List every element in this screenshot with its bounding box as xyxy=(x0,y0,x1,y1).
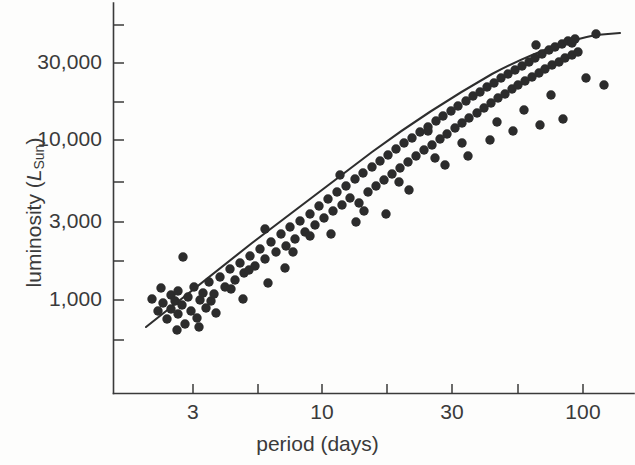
x-tick-label-3: 3 xyxy=(163,400,223,424)
y-axis-title-symbol: L xyxy=(22,170,45,182)
x-tick-label-10: 10 xyxy=(292,400,352,424)
x-axis-ticks xyxy=(193,384,583,394)
x-axis-title: period (days) xyxy=(0,432,635,456)
y-tick-label-10000: 10,000 xyxy=(0,127,102,151)
x-tick-label-100: 100 xyxy=(553,400,613,424)
y-axis-title-subscript: Sun xyxy=(31,145,47,170)
y-axis-ticks xyxy=(114,25,125,340)
figure-canvas: 30,000 10,000 3,000 1,000 3 10 30 100 pe… xyxy=(0,0,635,465)
y-tick-label-30000: 30,000 xyxy=(0,50,102,74)
x-tick-label-30: 30 xyxy=(422,400,482,424)
y-tick-label-1000: 1,000 xyxy=(0,287,102,311)
scatter-points xyxy=(147,29,608,334)
y-axis-title-suffix: ) xyxy=(22,138,45,145)
y-tick-label-3000: 3,000 xyxy=(0,209,102,233)
y-axis-title-prefix: luminosity ( xyxy=(22,181,45,287)
y-axis-title: luminosity (LSun) xyxy=(22,83,47,343)
